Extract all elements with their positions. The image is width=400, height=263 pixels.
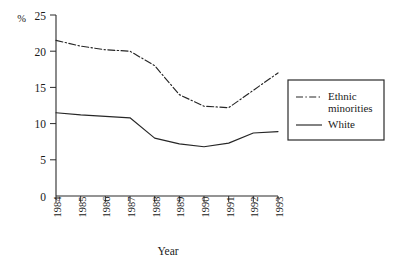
y-tick-label-20: 20 <box>35 46 47 58</box>
x-tick-label-1984: 1984 <box>52 196 63 218</box>
y-tick-label-5: 5 <box>40 154 46 166</box>
x-axis-ticks <box>56 196 278 202</box>
x-tick-label-1986: 1986 <box>101 197 112 218</box>
y-tick-label-15: 15 <box>35 82 47 94</box>
legend-label-ethnic-minorities-line1: Ethnic <box>328 90 357 102</box>
y-axis-tick-labels: 25 20 15 10 5 0 <box>35 10 47 203</box>
x-tick-label-1990: 1990 <box>200 197 211 218</box>
x-tick-label-1992: 1992 <box>249 197 260 218</box>
x-tick-label-1987: 1987 <box>126 197 137 218</box>
y-axis-unit-label: % <box>17 13 26 24</box>
legend-label-white: White <box>328 118 355 130</box>
y-tick-label-0: 0 <box>40 191 46 203</box>
series-line-ethnic-minorities <box>56 40 278 107</box>
x-axis-title: Year <box>157 245 178 257</box>
x-tick-label-1993: 1993 <box>274 197 285 218</box>
y-tick-label-10: 10 <box>35 118 47 130</box>
x-tick-label-1988: 1988 <box>151 197 162 218</box>
chart-container: % 25 20 15 10 5 0 <box>0 0 400 263</box>
line-chart: % 25 20 15 10 5 0 <box>0 0 400 263</box>
legend: Ethnic minorities White <box>288 80 384 140</box>
y-tick-label-25: 25 <box>35 10 47 22</box>
series-line-white <box>56 113 278 147</box>
x-axis-tick-labels: 1984 1985 1986 1987 1988 1989 1990 1991 … <box>52 196 285 218</box>
x-tick-label-1989: 1989 <box>175 197 186 218</box>
x-tick-label-1991: 1991 <box>225 197 236 218</box>
legend-label-ethnic-minorities-line2: minorities <box>328 102 373 114</box>
y-axis-ticks <box>50 15 56 160</box>
x-tick-label-1985: 1985 <box>77 197 88 218</box>
